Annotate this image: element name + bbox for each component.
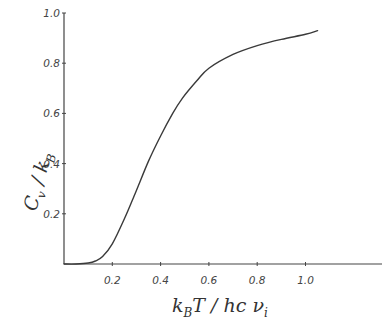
y-tick-label: 0.8 (43, 57, 60, 69)
x-tick-label: 0.4 (152, 274, 169, 286)
heat-capacity-chart: 0.20.40.60.81.00.20.40.60.81.0 kBT / hc … (0, 0, 389, 330)
x-axis-label: kBT / hc νi (172, 294, 268, 320)
x-tick-label: 0.8 (249, 274, 266, 286)
axes (64, 13, 382, 264)
x-tick-label: 0.2 (104, 274, 121, 286)
x-tick-label: 1.0 (297, 274, 314, 286)
y-tick-label: 1.0 (43, 7, 60, 19)
x-tick-label: 0.6 (201, 274, 218, 286)
y-axis-label: Cv / kB (19, 149, 60, 214)
heat-capacity-curve (64, 31, 318, 264)
y-tick-label: 0.2 (43, 208, 60, 220)
ticks: 0.20.40.60.81.00.20.40.60.81.0 (43, 7, 314, 286)
y-tick-label: 0.6 (43, 107, 60, 119)
